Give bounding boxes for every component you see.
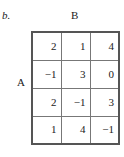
matrix-cell: 1 [32, 116, 61, 144]
matrix-cell: 2 [32, 32, 61, 60]
part-label: b. [2, 9, 10, 21]
matrix-cell: −1 [61, 88, 90, 116]
matrix-cell: 1 [61, 32, 90, 60]
payoff-matrix: 2 1 4 −1 3 0 2 −1 3 1 4 −1 [31, 31, 120, 145]
matrix-cell: −1 [32, 60, 61, 88]
matrix-cell: 0 [90, 60, 119, 88]
matrix-cell: 4 [61, 116, 90, 144]
matrix-cell: 3 [90, 88, 119, 116]
matrix-cell: −1 [90, 116, 119, 144]
matrix-row: 2 −1 3 [32, 88, 119, 116]
matrix-row: 1 4 −1 [32, 116, 119, 144]
row-player-label: A [17, 76, 25, 88]
matrix-row: 2 1 4 [32, 32, 119, 60]
matrix-cell: 3 [61, 60, 90, 88]
matrix-cell: 4 [90, 32, 119, 60]
column-player-label: B [71, 9, 78, 21]
matrix-cell: 2 [32, 88, 61, 116]
matrix-row: −1 3 0 [32, 60, 119, 88]
